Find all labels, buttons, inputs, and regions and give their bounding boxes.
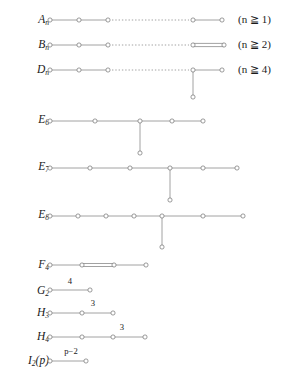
diagram-i-2-p (48, 359, 88, 363)
diagram-graphics-layer (0, 0, 297, 387)
node (77, 68, 81, 72)
node (170, 119, 174, 123)
node (220, 18, 224, 22)
node (220, 68, 224, 72)
node (106, 68, 110, 72)
node (77, 43, 81, 47)
node (88, 166, 92, 170)
branch-node (191, 95, 195, 99)
node (48, 263, 52, 267)
diagram-d-n (48, 68, 224, 99)
node (191, 18, 195, 22)
node (106, 43, 110, 47)
node (48, 214, 52, 218)
node (48, 311, 52, 315)
node (143, 335, 147, 339)
node (132, 214, 136, 218)
node (144, 263, 148, 267)
node (104, 214, 108, 218)
node (93, 119, 97, 123)
node (48, 119, 52, 123)
diagram-e-7 (48, 166, 239, 202)
diagram-h-3 (48, 311, 115, 315)
node (201, 214, 205, 218)
node (48, 359, 52, 363)
node (76, 214, 80, 218)
node (80, 335, 84, 339)
branch-node (138, 151, 142, 155)
node (191, 68, 195, 72)
node (80, 263, 84, 267)
node (48, 43, 52, 47)
node (77, 18, 81, 22)
diagram-f-4 (48, 263, 148, 267)
diagram-h-4 (48, 335, 147, 339)
node (48, 166, 52, 170)
node (80, 311, 84, 315)
diagram-g-2 (48, 288, 92, 292)
node (241, 214, 245, 218)
node (160, 214, 164, 218)
node (48, 68, 52, 72)
branch-node (160, 245, 164, 249)
node (112, 263, 116, 267)
node (235, 166, 239, 170)
branch-node (168, 198, 172, 202)
node (84, 359, 88, 363)
node (88, 288, 92, 292)
node (201, 119, 205, 123)
diagram-e-6 (48, 119, 205, 155)
node (111, 335, 115, 339)
diagram-b-n (48, 43, 226, 47)
node (106, 18, 110, 22)
node (48, 288, 52, 292)
coxeter-diagram-figure: An Bn Dn E6 E7 E8 F4 G2 H3 H4 I2(p) (n ≧… (0, 0, 297, 387)
node (111, 311, 115, 315)
node (128, 166, 132, 170)
node (222, 43, 226, 47)
node (48, 335, 52, 339)
diagram-a-n (48, 18, 224, 22)
node (138, 119, 142, 123)
node (168, 166, 172, 170)
diagram-e-8 (48, 214, 245, 249)
node (201, 166, 205, 170)
node (191, 43, 195, 47)
node (48, 18, 52, 22)
